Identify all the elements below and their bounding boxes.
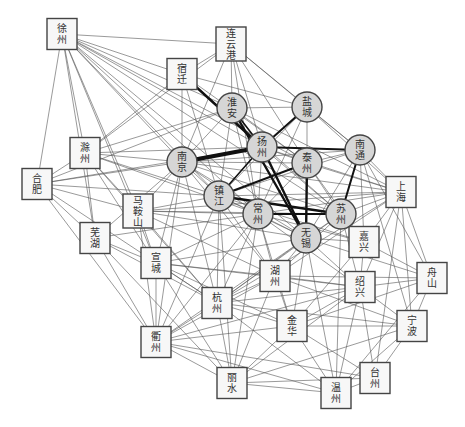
edge-xuzhou-wuhu [62,34,95,238]
node-label: 衢 [151,331,161,342]
node-label: 金 [287,314,297,326]
node-label: 山 [133,217,143,228]
node-label: 湖 [270,265,280,276]
node-label: 丽 [227,372,237,383]
node-label: 山 [427,278,437,289]
node-label: 水 [227,383,237,394]
node-label: 嘉 [359,230,369,242]
node-wenzhou: 温州 [321,378,351,409]
node-label: 台 [370,366,380,378]
node-label: 肥 [32,184,42,195]
edge-xuzhou-hefei [37,34,62,184]
edge-nanjing-taizhou_js [182,162,307,163]
node-label: 州 [212,303,222,314]
node-label: 波 [407,325,417,337]
node-label: 舟 [427,266,437,278]
edge-shanghai-ningbo [401,192,412,326]
node-xuzhou: 徐州 [47,19,77,50]
node-hefei: 合肥 [22,169,52,200]
node-label: 常 [253,202,263,214]
node-label: 安 [227,107,237,119]
node-chuzhou: 滁州 [70,138,100,169]
node-label: 州 [331,393,341,404]
node-label: 鞍 [133,205,143,217]
node-label: 宣 [151,251,161,263]
edge-huaian-hefei [37,108,232,184]
node-wuhu: 芜湖 [80,223,110,254]
node-label: 芜 [90,226,100,238]
node-suqian: 宿迁 [167,59,197,90]
node-label: 州 [336,214,346,225]
node-label: 绍 [355,275,365,287]
node-label: 合 [32,172,42,184]
node-label: 州 [257,147,267,158]
node-huaian: 淮安 [217,93,247,123]
node-label: 淮 [227,97,237,108]
node-jiaxing: 嘉兴 [349,227,379,258]
node-jinhua: 金华 [277,311,307,342]
node-label: 华 [287,325,297,337]
node-label: 州 [253,214,263,225]
node-label: 镇 [214,184,224,196]
node-label: 通 [355,150,365,161]
node-shanghai: 上海 [386,177,416,208]
node-label: 盐 [302,95,312,107]
node-label: 城 [151,263,161,274]
node-label: 马 [133,195,143,206]
node-xuancheng: 宣城 [141,248,171,279]
node-zhoushan: 舟山 [417,263,447,294]
node-label: 滁 [80,141,90,153]
network-diagram: 徐州连云港宿迁滁州合肥马鞍山芜湖宣城杭州湖州衢州丽水金华温州台州绍兴宁波舟山嘉兴… [0,0,465,427]
node-label: 锡 [301,237,311,249]
node-label: 连 [226,27,236,39]
node-label: 杭 [212,291,222,303]
node-label: 宿 [177,62,187,74]
node-label: 海 [396,191,406,203]
node-label: 州 [302,163,312,174]
node-maanshan: 马鞍山 [123,194,153,228]
node-hangzhou: 杭州 [202,288,232,319]
node-lianyungang: 连云港 [216,27,246,62]
node-suzhou: 苏州 [326,199,356,229]
edge-shanghai-taizhou_zj [375,192,401,378]
node-label: 云 [226,39,236,50]
node-label: 湖 [90,238,100,249]
edge-xuzhou-maanshan [62,34,138,211]
node-label: 州 [57,34,67,45]
node-label: 兴 [355,287,365,298]
node-label: 州 [80,153,90,164]
node-lishui: 丽水 [217,368,247,399]
node-label: 宁 [407,314,417,326]
node-label: 州 [151,342,161,353]
node-label: 城 [302,107,312,118]
node-nanjing: 南京 [167,147,197,177]
node-zhenjiang: 镇江 [204,181,234,211]
weak-edges [37,34,432,393]
edge-suzhou-wenzhou [336,214,341,393]
node-taizhou_zj: 台州 [360,363,390,394]
node-huzhou: 湖州 [260,261,290,292]
node-shaoxing: 绍兴 [345,272,375,303]
node-taizhou_js: 泰州 [292,148,322,178]
node-label: 港 [226,50,236,61]
node-label: 扬 [257,135,267,147]
node-label: 徐 [57,22,67,34]
edge-hangzhou-ningbo [217,303,412,326]
node-label: 江 [214,196,224,207]
node-quzhou: 衢州 [141,327,171,358]
node-label: 州 [270,276,280,287]
node-label: 州 [370,378,380,389]
node-label: 无 [301,227,311,238]
node-label: 温 [331,382,341,393]
edge-lishui-taizhou_zj [232,378,375,383]
node-label: 京 [177,161,187,173]
node-label: 苏 [336,202,346,214]
node-wuxi: 无锡 [291,223,321,253]
node-yancheng: 盐城 [292,92,322,122]
node-label: 南 [177,150,187,162]
node-label: 泰 [302,151,312,163]
node-label: 迁 [177,74,187,85]
node-nantong: 南通 [345,135,375,165]
node-changzhou: 常州 [243,199,273,229]
node-yangzhou: 扬州 [247,132,277,162]
